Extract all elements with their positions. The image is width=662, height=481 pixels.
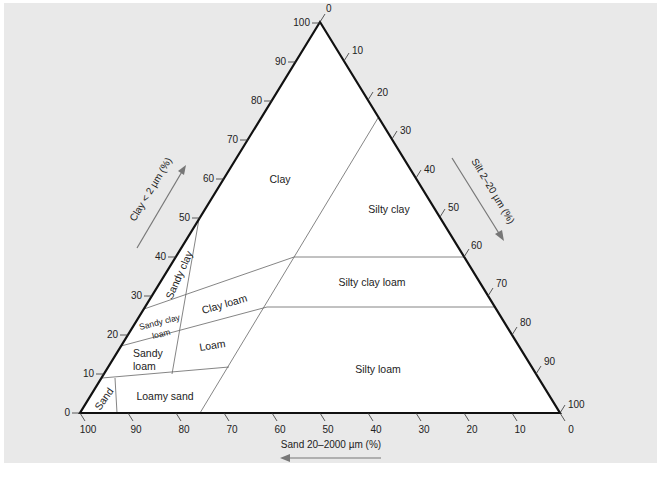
svg-text:80: 80: [178, 424, 190, 435]
label-sandy-loam-1: Sandy: [133, 347, 164, 359]
svg-text:0: 0: [64, 407, 70, 418]
clay-arrow-head: [178, 165, 186, 175]
svg-text:0: 0: [326, 3, 332, 14]
svg-text:60: 60: [203, 173, 215, 184]
silt-arrow-head: [495, 230, 504, 241]
sand-arrow-head: [280, 454, 290, 462]
svg-text:60: 60: [274, 424, 286, 435]
svg-text:40: 40: [155, 251, 167, 262]
svg-text:50: 50: [179, 212, 191, 223]
svg-text:70: 70: [226, 424, 238, 435]
sand-axis-title: Sand 20–2000 µm (%): [281, 439, 381, 450]
svg-text:40: 40: [370, 424, 382, 435]
svg-text:100: 100: [293, 17, 310, 28]
label-loamy-sand: Loamy sand: [136, 390, 193, 402]
label-silty-clay-loam: Silty clay loam: [338, 276, 405, 288]
svg-text:70: 70: [227, 134, 239, 145]
svg-text:50: 50: [448, 202, 460, 213]
svg-text:90: 90: [130, 424, 142, 435]
svg-text:100: 100: [80, 424, 97, 435]
label-silty-loam: Silty loam: [355, 363, 401, 375]
svg-text:70: 70: [496, 278, 508, 289]
svg-text:20: 20: [377, 87, 389, 98]
silt-axis-title: Silt 2–20 µm (%): [469, 156, 517, 225]
svg-text:90: 90: [544, 356, 556, 367]
sand-axis-ticks: [80, 413, 565, 421]
label-sandy-loam-2: loam: [133, 360, 156, 372]
sand-axis-title-group: Sand 20–2000 µm (%): [280, 439, 381, 462]
svg-text:100: 100: [568, 399, 585, 410]
svg-text:40: 40: [424, 164, 436, 175]
soil-texture-diagram: 0 10 20 30 40 50 60 70 80 90 100 0 10 20…: [0, 0, 662, 481]
clay-axis-title: Clay < 2 µm (%): [127, 156, 174, 224]
svg-text:30: 30: [418, 424, 430, 435]
svg-text:30: 30: [131, 290, 143, 301]
svg-text:20: 20: [466, 424, 478, 435]
svg-text:80: 80: [251, 95, 263, 106]
label-clay: Clay: [269, 173, 291, 185]
svg-text:10: 10: [352, 45, 364, 56]
clay-axis-title-group: Clay < 2 µm (%): [127, 156, 186, 248]
svg-text:90: 90: [275, 56, 287, 67]
svg-text:30: 30: [400, 125, 412, 136]
svg-text:80: 80: [520, 317, 532, 328]
svg-text:0: 0: [568, 424, 574, 435]
svg-text:60: 60: [471, 240, 483, 251]
label-silty-clay: Silty clay: [368, 203, 410, 215]
svg-text:10: 10: [83, 368, 95, 379]
svg-text:10: 10: [514, 424, 526, 435]
svg-text:50: 50: [322, 424, 334, 435]
svg-text:20: 20: [107, 329, 119, 340]
silt-axis-title-group: Silt 2–20 µm (%): [452, 156, 517, 241]
sand-axis-labels: 100 90 80 70 60 50 40 30 20 10 0: [80, 424, 575, 435]
